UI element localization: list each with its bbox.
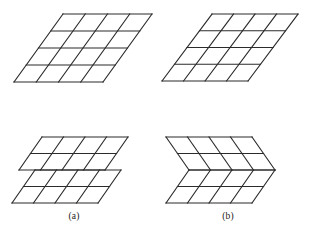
figure-root: (a) (b) xyxy=(0,0,311,228)
caption-a: (a) xyxy=(68,211,79,222)
plain-parallelogram-grid-top-right xyxy=(162,14,298,81)
caption-b: (b) xyxy=(222,211,234,222)
figure-canvas: (a) (b) xyxy=(0,0,311,228)
offset-parallelogram-grid-a xyxy=(12,137,128,203)
plain-parallelogram-grid-top-left xyxy=(14,14,152,82)
chevron-parallelogram-grid-b xyxy=(166,137,275,203)
